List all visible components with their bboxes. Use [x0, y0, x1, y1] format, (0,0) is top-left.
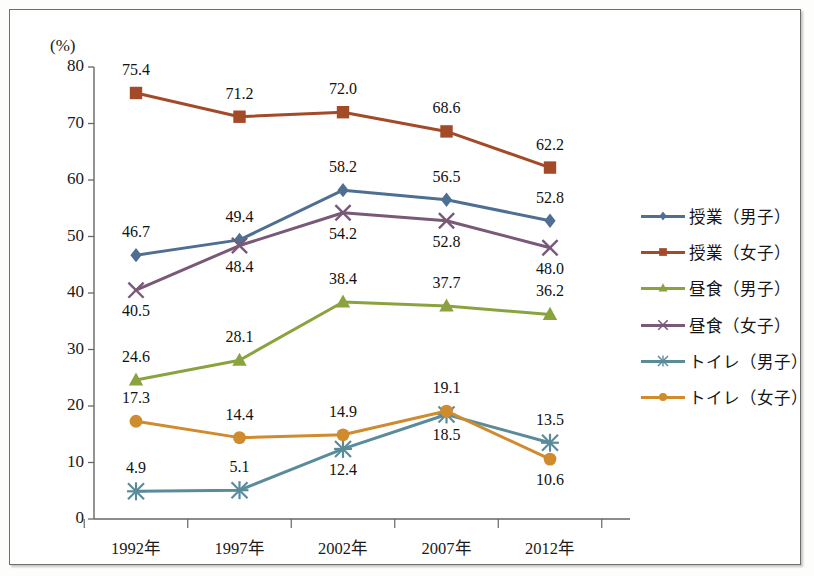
x-tick-label: 2002年	[291, 535, 395, 559]
data-label: 4.9	[126, 459, 146, 477]
data-label: 48.4	[226, 258, 254, 276]
data-label: 54.2	[329, 225, 357, 243]
data-label: 14.9	[329, 403, 357, 421]
y-tick-label: 50	[40, 226, 84, 246]
data-label: 46.7	[122, 223, 150, 241]
circle-marker-icon	[641, 387, 685, 407]
legend-label: トイレ（女子）	[685, 385, 808, 409]
data-label: 58.2	[329, 158, 357, 176]
cross-marker-icon	[641, 315, 685, 335]
asterisk-marker-icon	[641, 351, 685, 371]
x-tick-label: 1997年	[188, 535, 292, 559]
legend-label: 授業（男子）	[685, 204, 791, 228]
chart-frame: (%) 80706050403020100 1992年1997年2002年200…	[9, 9, 801, 565]
data-label: 52.8	[536, 189, 564, 207]
data-label: 24.6	[122, 348, 150, 366]
data-label: 5.1	[230, 458, 250, 476]
data-label: 14.4	[226, 406, 254, 424]
data-label: 28.1	[226, 328, 254, 346]
legend-item-2[interactable]: 昼食（男子）	[641, 270, 809, 306]
data-label: 56.5	[433, 168, 461, 186]
x-tick-label: 2007年	[395, 535, 499, 559]
legend-item-3[interactable]: 昼食（女子）	[641, 307, 809, 343]
x-tick-label: 2012年	[498, 535, 602, 559]
legend-item-5[interactable]: トイレ（女子）	[641, 379, 809, 415]
data-label: 52.8	[433, 233, 461, 251]
x-tick-label: 1992年	[84, 535, 188, 559]
data-label: 71.2	[226, 85, 254, 103]
chart-legend: 授業（男子）授業（女子）昼食（男子）昼食（女子）トイレ（男子）トイレ（女子）	[641, 198, 809, 415]
data-label: 18.5	[433, 426, 461, 444]
y-tick-label: 20	[40, 395, 84, 415]
y-tick-label: 10	[40, 452, 84, 472]
data-label: 37.7	[433, 274, 461, 292]
data-label: 72.0	[329, 80, 357, 98]
legend-label: 昼食（男子）	[685, 276, 791, 300]
y-tick-label: 60	[40, 169, 84, 189]
y-tick-label: 0	[40, 508, 84, 528]
chart-figure: (%) 80706050403020100 1992年1997年2002年200…	[0, 0, 814, 576]
data-label: 68.6	[433, 99, 461, 117]
square-marker-icon	[641, 242, 685, 262]
legend-item-0[interactable]: 授業（男子）	[641, 198, 809, 234]
data-label: 10.6	[536, 471, 564, 489]
y-tick-label: 40	[40, 282, 84, 302]
legend-label: トイレ（男子）	[685, 349, 808, 373]
triangle-marker-icon	[641, 278, 685, 298]
legend-item-4[interactable]: トイレ（男子）	[641, 343, 809, 379]
data-label: 75.4	[122, 61, 150, 79]
data-label: 48.0	[536, 260, 564, 278]
series-0	[130, 183, 555, 262]
data-label: 13.5	[536, 411, 564, 429]
series-2	[129, 294, 557, 385]
data-label: 40.5	[122, 302, 150, 320]
data-label: 36.2	[536, 282, 564, 300]
data-label: 38.4	[329, 270, 357, 288]
data-label: 49.4	[226, 208, 254, 226]
data-label: 19.1	[433, 379, 461, 397]
data-label: 62.2	[536, 136, 564, 154]
y-tick-label: 30	[40, 339, 84, 359]
legend-label: 昼食（女子）	[685, 313, 791, 337]
legend-label: 授業（女子）	[685, 240, 791, 264]
y-tick-label: 70	[40, 113, 84, 133]
y-tick-label: 80	[40, 56, 84, 76]
data-label: 12.4	[329, 461, 357, 479]
legend-item-1[interactable]: 授業（女子）	[641, 234, 809, 270]
diamond-marker-icon	[641, 206, 685, 226]
data-label: 17.3	[122, 389, 150, 407]
